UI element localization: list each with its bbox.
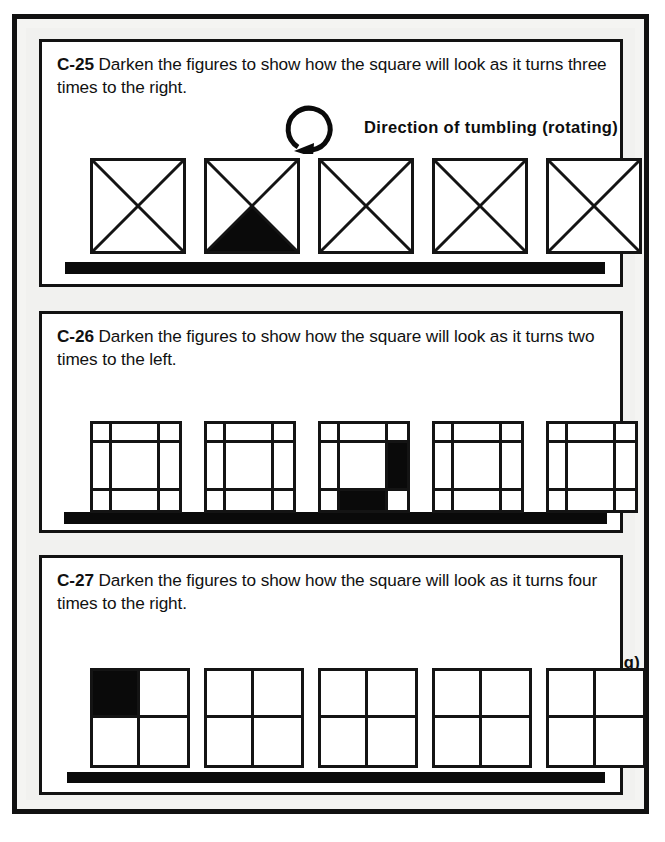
figure-c25-5[interactable] [546,158,642,254]
grid-cell[interactable] [549,718,596,765]
exercise-panel-c27: C-27 Darken the figures to show how the … [39,555,623,795]
grid-cell[interactable] [435,424,454,443]
grid-cell[interactable] [207,671,254,718]
grid-cell[interactable] [502,491,521,510]
exercise-panel-c26: C-26 Darken the figures to show how the … [39,311,623,533]
grid-cell[interactable] [207,424,226,443]
grid-cell[interactable] [368,718,415,765]
grid-cell[interactable] [616,491,635,510]
grid-cell[interactable] [226,443,274,491]
grid-cell[interactable] [254,671,301,718]
grid-cell[interactable] [482,718,529,765]
grid-cell[interactable] [549,671,596,718]
grid-cell[interactable] [454,491,502,510]
grid-cell[interactable] [502,443,521,491]
grid-cell[interactable] [388,424,407,443]
exercise-panel-c25: C-25 Darken the figures to show how the … [39,39,623,287]
grid-cell[interactable] [435,671,482,718]
grid-cell[interactable] [321,671,368,718]
grid-cell[interactable] [340,443,388,491]
grid-cell-filled[interactable] [388,443,407,491]
grid-cell[interactable] [321,718,368,765]
figure-c26-4[interactable] [432,421,524,513]
grid-cell[interactable] [140,718,187,765]
grid-cell[interactable] [616,443,635,491]
grid-cell[interactable] [368,671,415,718]
grid-cell[interactable] [435,443,454,491]
grid-cell[interactable] [549,424,568,443]
grid-cell[interactable] [568,443,616,491]
grid-cell[interactable] [226,424,274,443]
figure-c27-1[interactable] [90,668,190,768]
grid-cell[interactable] [568,491,616,510]
exercise-code-c27: C-27 [57,570,94,590]
grid-cell[interactable] [93,718,140,765]
figure-strip-c27 [42,660,620,792]
grid-cell[interactable] [160,424,179,443]
grid-cell[interactable] [112,424,160,443]
grid-cell[interactable] [596,671,643,718]
grid-cell[interactable] [207,718,254,765]
grid-cell-filled[interactable] [340,491,388,510]
grid-cell[interactable] [207,443,226,491]
figure-c27-4[interactable] [432,668,532,768]
figure-c27-5[interactable] [546,668,646,768]
figure-c25-2[interactable] [204,158,300,254]
ground-bar-c26 [64,512,607,524]
grid-cell[interactable] [112,443,160,491]
worksheet-frame: C-25 Darken the figures to show how the … [12,14,649,814]
grid-cell[interactable] [112,491,160,510]
grid-cell[interactable] [549,491,568,510]
figure-c25-4[interactable] [432,158,528,254]
grid-cell[interactable] [160,491,179,510]
ground-bar-c27 [67,772,605,783]
grid-cell[interactable] [226,491,274,510]
grid-cell[interactable] [93,491,112,510]
figure-c26-2[interactable] [204,421,296,513]
exercise-code-c25: C-25 [57,54,94,74]
grid-cell[interactable] [454,443,502,491]
grid-cell[interactable] [482,671,529,718]
grid-cell[interactable] [549,443,568,491]
grid-cell[interactable] [321,443,340,491]
figure-strip-c26 [42,413,620,531]
grid-cell[interactable] [321,491,340,510]
exercise-text-c27: Darken the figures to show how the squar… [57,570,597,613]
grid-cell[interactable] [160,443,179,491]
panel-instruction-c26: C-26 Darken the figures to show how the … [57,325,608,371]
grid-cell[interactable] [93,424,112,443]
figure-c26-3[interactable] [318,421,410,513]
grid-cell[interactable] [321,424,340,443]
grid-cell[interactable] [596,718,643,765]
panel-instruction-c27: C-27 Darken the figures to show how the … [57,569,608,615]
grid-cell[interactable] [340,424,388,443]
exercise-code-c26: C-26 [57,326,94,346]
grid-cell[interactable] [502,424,521,443]
figure-c27-3[interactable] [318,668,418,768]
panel-instruction-c25: C-25 Darken the figures to show how the … [57,53,608,99]
figure-c26-5[interactable] [546,421,638,513]
grid-cell[interactable] [254,718,301,765]
ground-bar-c25 [65,262,605,274]
exercise-text-c25: Darken the figures to show how the squar… [57,54,607,97]
figure-c25-1[interactable] [90,158,186,254]
grid-cell[interactable] [435,718,482,765]
figure-c27-2[interactable] [204,668,304,768]
grid-cell[interactable] [140,671,187,718]
rotate-counterclockwise-icon [282,100,346,154]
grid-cell-filled[interactable] [93,671,140,718]
grid-cell[interactable] [274,443,293,491]
grid-cell[interactable] [435,491,454,510]
grid-cell[interactable] [207,491,226,510]
grid-cell[interactable] [93,443,112,491]
worksheet-inner-area: C-25 Darken the figures to show how the … [26,28,635,800]
grid-cell[interactable] [454,424,502,443]
grid-cell[interactable] [568,424,616,443]
grid-cell[interactable] [274,491,293,510]
grid-cell[interactable] [616,424,635,443]
figure-c26-1[interactable] [90,421,182,513]
figure-c25-3[interactable] [318,158,414,254]
grid-cell[interactable] [388,491,407,510]
grid-cell[interactable] [274,424,293,443]
direction-label-c25: Direction of tumbling (rotating) [364,118,618,137]
